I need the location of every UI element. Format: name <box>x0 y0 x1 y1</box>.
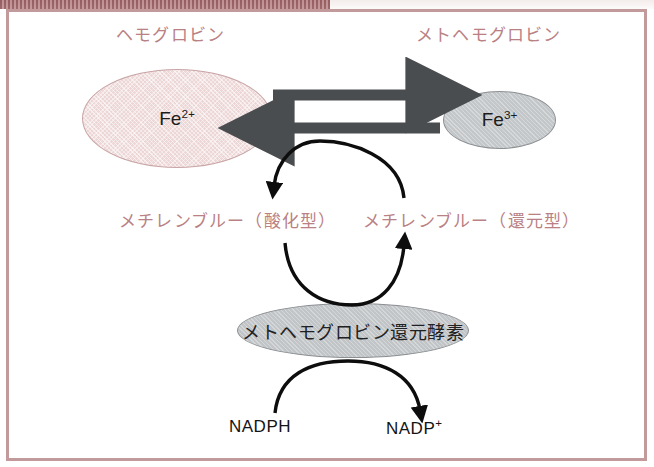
label-nadph: NADPH <box>229 418 291 435</box>
figure-frame <box>6 9 647 461</box>
enzyme-label: メトヘモグロビン還元酵素 <box>242 318 464 344</box>
label-hemoglobin: ヘモグロビン <box>116 27 225 44</box>
figure-page: ヘモグロビン メトヘモグロビン Fe2+ Fe3+ メチレンブルー（酸化型） メ… <box>0 0 654 467</box>
hemoglobin-ellipse: Fe2+ <box>82 69 272 168</box>
ferrous-ion-label: Fe2+ <box>159 107 195 130</box>
ferrous-ion-symbol: Fe <box>159 108 181 129</box>
nadp-charge: + <box>435 417 442 429</box>
ferric-ion-symbol: Fe <box>482 110 504 131</box>
label-nadp-plus: NADP+ <box>386 418 442 437</box>
ferric-ion-charge: 3+ <box>504 108 517 121</box>
ferric-ion-label: Fe3+ <box>482 108 518 131</box>
label-methylene-blue-reduced: メチレンブルー（還元型） <box>363 213 580 230</box>
methemoglobin-ellipse: Fe3+ <box>443 91 556 149</box>
label-methylene-blue-oxidized: メチレンブルー（酸化型） <box>119 213 336 230</box>
nadp-symbol: NADP <box>386 419 435 438</box>
methemoglobin-reductase-ellipse: メトヘモグロビン還元酵素 <box>237 303 469 358</box>
ferrous-ion-charge: 2+ <box>181 107 194 120</box>
label-methemoglobin: メトヘモグロビン <box>416 27 562 44</box>
scan-edge-band-right <box>330 0 654 9</box>
